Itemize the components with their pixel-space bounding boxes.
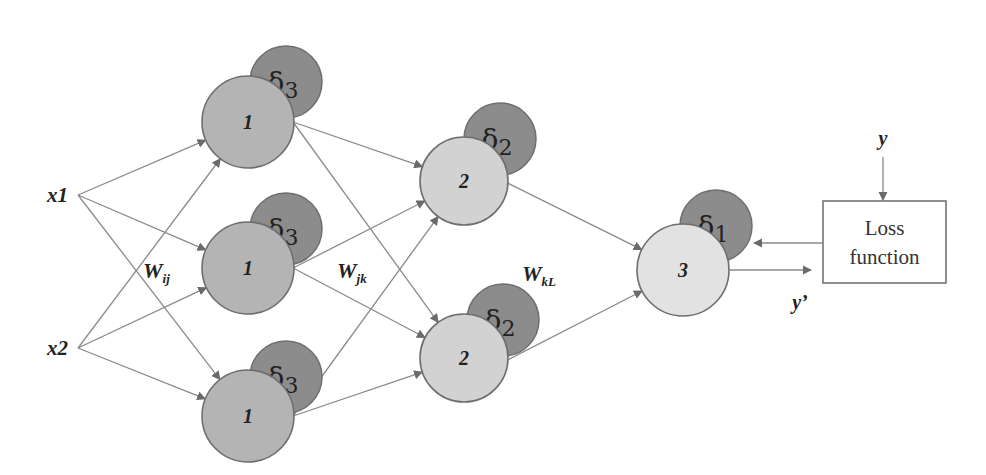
edge-x2-to-layer1 (78, 159, 220, 348)
edge-layer2-to-output (504, 181, 642, 250)
weight-label-w-ij: Wij (143, 258, 170, 286)
edge-x2-to-layer1 (78, 348, 205, 399)
output-node: δ13 (637, 190, 752, 316)
input-label-x2: x2 (46, 336, 69, 360)
edge-x2-to-layer1 (78, 288, 206, 348)
layer2-node-1: δ22 (420, 103, 536, 225)
layer2-node-2: δ22 (420, 284, 539, 402)
loss-box-line2: function (850, 245, 920, 269)
network-nodes: δ31δ31δ31δ22δ22δ13 (202, 46, 752, 462)
neuron-label: 3 (677, 259, 688, 281)
neural-network-backprop-diagram: δ31δ31δ31δ22δ22δ13 x1x2WijWjkWkLLossfunc… (0, 0, 986, 475)
neuron-label: 1 (243, 257, 253, 279)
input-label-x1: x1 (46, 183, 68, 207)
weight-label-w-jk: Wjk (337, 258, 367, 286)
edge-layer1-to-layer2 (293, 122, 422, 167)
layer1-node-1: δ31 (202, 46, 322, 168)
loss-box-line1: Loss (865, 216, 905, 240)
neuron-label: 1 (243, 111, 253, 133)
neuron-label: 1 (243, 405, 253, 427)
loss-function-box (823, 201, 946, 283)
weight-label-w-kl: WkL (522, 261, 556, 289)
layer1-node-2: δ31 (202, 193, 322, 314)
edge-x1-to-layer1 (78, 140, 206, 195)
target-label-y: y (877, 127, 888, 150)
neuron-label: 2 (458, 347, 469, 369)
layer1-node-3: δ31 (202, 341, 322, 462)
prediction-label: y’ (790, 291, 808, 314)
neuron-label: 2 (458, 170, 469, 192)
edge-x1-to-layer1 (78, 195, 220, 380)
connection-edges (78, 122, 642, 416)
